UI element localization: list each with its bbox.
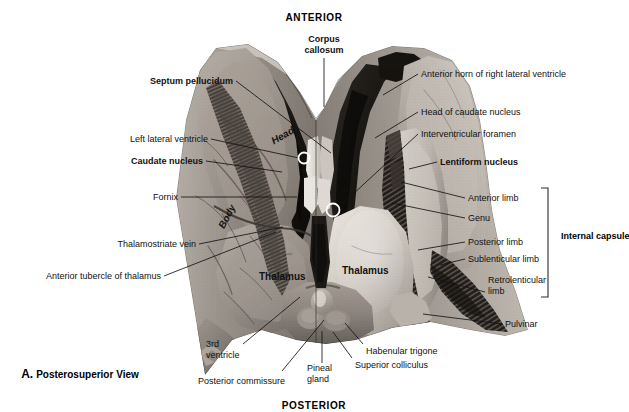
label-thalamus-left: Thalamus bbox=[259, 271, 306, 282]
label-interventricular-foramen: Interventricular foramen bbox=[421, 129, 516, 140]
label-pineal-gland: Pineal gland bbox=[307, 363, 332, 385]
orientation-anterior: ANTERIOR bbox=[264, 12, 364, 23]
label-septum-pellucidum: Septum pellucidum bbox=[150, 76, 233, 87]
brain-specimen-illustration bbox=[0, 0, 629, 412]
label-anterior-limb: Anterior limb bbox=[468, 193, 519, 204]
label-habenular-trigone: Habenular trigone bbox=[366, 346, 438, 357]
label-fornix: Fornix bbox=[153, 192, 178, 203]
label-internal-capsule: Internal capsule bbox=[561, 231, 629, 241]
label-third-ventricle: 3rd ventricle bbox=[206, 339, 240, 361]
label-left-lateral-ventricle: Left lateral ventricle bbox=[130, 134, 208, 145]
label-anterior-horn-of-right-lateral-ventricle: Anterior horn of right lateral ventricle bbox=[421, 69, 566, 80]
figure-panel-letter: A. bbox=[21, 367, 33, 381]
label-caudate-nucleus: Caudate nucleus bbox=[131, 156, 203, 167]
label-posterior-limb: Posterior limb bbox=[468, 237, 523, 248]
label-thalamostriate-vein: Thalamostriate vein bbox=[117, 239, 196, 250]
figure-panel-title: A.Posterosuperior View bbox=[10, 356, 139, 392]
label-thalamus-right: Thalamus bbox=[342, 265, 389, 276]
figure-page: ANTERIOR POSTERIOR Corpus callosum A.Pos… bbox=[0, 0, 629, 412]
label-lentiform-nucleus: Lentiform nucleus bbox=[440, 157, 518, 168]
label-retrolenticular-limb: Retrolenticular limb bbox=[488, 275, 546, 297]
label-pulvinar: Pulvinar bbox=[505, 319, 538, 330]
label-head-of-caudate-nucleus: Head of caudate nucleus bbox=[421, 107, 521, 118]
label-anterior-tubercle-of-thalamus: Anterior tubercle of thalamus bbox=[46, 271, 161, 282]
label-superior-colliculus: Superior colliculus bbox=[355, 360, 428, 371]
label-posterior-commissure: Posterior commissure bbox=[198, 376, 285, 387]
label-genu: Genu bbox=[468, 213, 490, 224]
label-corpus-callosum: Corpus callosum bbox=[284, 34, 364, 56]
label-sublenticular-limb: Sublenticular limb bbox=[468, 254, 539, 265]
orientation-posterior: POSTERIOR bbox=[264, 400, 364, 411]
figure-panel-title-text: Posterosuperior View bbox=[33, 369, 139, 380]
